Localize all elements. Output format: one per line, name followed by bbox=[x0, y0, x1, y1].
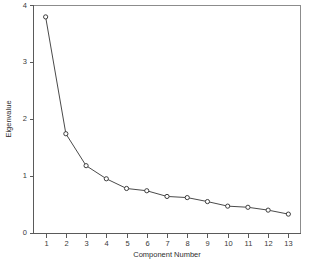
x-tick-label-2: 2 bbox=[64, 239, 68, 248]
y-tick-label-2: 2 bbox=[23, 114, 27, 123]
x-tick-label-9: 9 bbox=[205, 239, 209, 248]
x-tick-label-13: 13 bbox=[284, 239, 292, 248]
scree-plot-figure: 0 1 2 3 4 12345678910111213 Component Nu… bbox=[0, 0, 311, 263]
data-point-6 bbox=[145, 189, 149, 193]
data-point-7 bbox=[165, 194, 169, 198]
x-tick-label-8: 8 bbox=[185, 239, 189, 248]
x-tick-label-7: 7 bbox=[165, 239, 169, 248]
x-tick-label-6: 6 bbox=[145, 239, 149, 248]
data-point-1 bbox=[44, 15, 48, 19]
figure-background bbox=[0, 0, 311, 263]
y-axis-title: Eigenvalue bbox=[4, 100, 13, 137]
y-tick-label-4: 4 bbox=[23, 1, 27, 10]
x-axis-title: Component Number bbox=[133, 250, 201, 259]
data-point-5 bbox=[124, 186, 128, 190]
data-point-3 bbox=[84, 164, 88, 168]
plot-canvas: 0 1 2 3 4 12345678910111213 Component Nu… bbox=[0, 0, 311, 263]
x-tick-label-5: 5 bbox=[125, 239, 129, 248]
x-tick-label-4: 4 bbox=[104, 239, 108, 248]
data-point-11 bbox=[246, 205, 250, 209]
y-tick-label-0: 0 bbox=[23, 228, 27, 237]
data-point-2 bbox=[64, 132, 68, 136]
x-tick-label-10: 10 bbox=[224, 239, 232, 248]
data-point-4 bbox=[104, 177, 108, 181]
x-tick-label-3: 3 bbox=[84, 239, 88, 248]
x-tick-label-1: 1 bbox=[44, 239, 48, 248]
data-point-9 bbox=[205, 199, 209, 203]
data-point-8 bbox=[185, 195, 189, 199]
y-tick-label-1: 1 bbox=[23, 171, 27, 180]
data-point-10 bbox=[226, 204, 230, 208]
x-tick-label-12: 12 bbox=[264, 239, 272, 248]
x-tick-label-11: 11 bbox=[245, 239, 253, 248]
data-point-13 bbox=[286, 212, 290, 216]
data-point-12 bbox=[266, 208, 270, 212]
y-tick-label-3: 3 bbox=[23, 57, 27, 66]
